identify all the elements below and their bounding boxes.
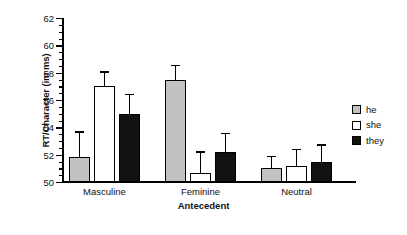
error-bar-feminine-they [225, 133, 226, 152]
error-bar-neutral-she [296, 149, 297, 165]
bar-feminine-she [190, 173, 211, 182]
y-tick-minor [59, 80, 63, 81]
bar-chart-figure: RT/Character (im ms) 50525456586062 Masc… [0, 0, 407, 235]
legend: heshethey [352, 104, 384, 151]
y-tick-label: 54 [43, 122, 54, 133]
error-cap-neutral-he [267, 156, 276, 157]
error-cap-masculine-they [125, 94, 134, 95]
y-tick-minor [59, 175, 63, 176]
bar-feminine-he [165, 80, 186, 182]
legend-label: they [366, 136, 384, 146]
x-axis-title: Antecedent [0, 200, 407, 211]
y-tick-major [56, 155, 63, 156]
y-tick-major [56, 73, 63, 74]
x-category-label-neutral: Neutral [281, 186, 312, 197]
error-cap-neutral-she [292, 149, 301, 150]
bar-neutral-she [286, 166, 307, 182]
legend-label: she [366, 120, 381, 130]
error-cap-masculine-she [100, 71, 109, 72]
x-category-label-masculine: Masculine [83, 186, 126, 197]
legend-item-he: he [352, 104, 384, 115]
bar-masculine-he [69, 157, 90, 182]
error-bar-feminine-he [175, 65, 176, 80]
y-tick-minor [59, 141, 63, 142]
legend-item-she: she [352, 120, 384, 131]
gray-swatch [352, 105, 361, 114]
y-tick-minor [59, 121, 63, 122]
y-tick-minor [59, 93, 63, 94]
y-tick-major [56, 127, 63, 128]
y-tick-minor [59, 66, 63, 67]
error-cap-feminine-she [196, 151, 205, 152]
error-cap-feminine-he [171, 65, 180, 66]
y-tick-label: 62 [43, 13, 54, 24]
y-tick-label: 58 [43, 67, 54, 78]
bar-feminine-they [215, 152, 236, 182]
error-bar-neutral-he [271, 156, 272, 168]
error-cap-neutral-they [317, 144, 326, 145]
y-tick-minor [59, 32, 63, 33]
error-bar-feminine-she [200, 151, 201, 173]
y-tick-minor [59, 114, 63, 115]
error-cap-feminine-they [221, 133, 230, 134]
y-tick-minor [59, 162, 63, 163]
y-tick-minor [59, 148, 63, 149]
x-category-label-feminine: Feminine [181, 186, 220, 197]
y-tick-label: 60 [43, 40, 54, 51]
y-tick-major [56, 45, 63, 46]
y-tick-minor [59, 134, 63, 135]
bar-masculine-they [119, 114, 140, 182]
y-tick-minor [59, 86, 63, 87]
y-tick-minor [59, 59, 63, 60]
y-tick-label: 56 [43, 95, 54, 106]
y-tick-minor [59, 39, 63, 40]
y-tick-minor [59, 107, 63, 108]
legend-item-they: they [352, 135, 384, 146]
bar-masculine-she [94, 86, 115, 182]
y-tick-label: 50 [43, 177, 54, 188]
error-bar-neutral-they [321, 144, 322, 162]
bar-neutral-they [311, 162, 332, 182]
plot-area: 50525456586062 [63, 18, 355, 182]
bar-neutral-he [261, 168, 282, 182]
y-tick-major [56, 100, 63, 101]
y-tick-minor [59, 168, 63, 169]
black-swatch [352, 136, 361, 145]
white-swatch [352, 121, 361, 130]
error-cap-masculine-he [75, 131, 84, 132]
error-bar-masculine-they [129, 94, 130, 115]
y-tick-label: 52 [43, 149, 54, 160]
y-tick-minor [59, 25, 63, 26]
y-tick-major [56, 182, 63, 183]
error-bar-masculine-she [104, 71, 105, 86]
y-tick-major [56, 18, 63, 19]
legend-label: he [366, 105, 377, 115]
error-bar-masculine-he [79, 131, 80, 157]
y-tick-minor [59, 52, 63, 53]
